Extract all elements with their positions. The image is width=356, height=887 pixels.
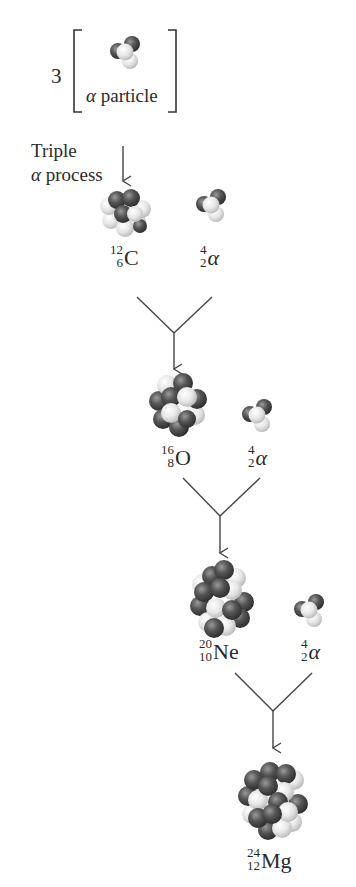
element-symbol: Mg: [261, 850, 292, 872]
isotope-label-alpha-2: 42α: [248, 443, 267, 469]
atomic-number: 2: [301, 650, 308, 663]
isotope-label-neon-20: 2010Ne: [199, 637, 239, 663]
triple-label: Triple: [31, 141, 77, 160]
element-symbol: α: [256, 447, 268, 469]
isotope-label-alpha-3: 42α: [301, 637, 320, 663]
atomic-number: 2: [248, 456, 255, 469]
carbon-12-nucleus: [100, 189, 151, 237]
atomic-number: 8: [161, 456, 174, 469]
oxygen-16-nucleus: [149, 373, 207, 437]
isotope-label-magnesium-24: 2412Mg: [247, 846, 292, 872]
atomic-number: 6: [110, 256, 123, 269]
isotope-label-alpha-1: 42α: [200, 243, 219, 269]
isotope-label-oxygen-16: 168O: [161, 443, 191, 469]
alpha-particle-icon: [110, 36, 140, 69]
element-symbol: C: [124, 247, 139, 269]
multiplier-label: 3: [51, 66, 62, 87]
alpha-process-label: α process: [31, 165, 103, 184]
alpha-symbol: α: [86, 85, 96, 106]
isotope-label-carbon-12: 126C: [110, 243, 139, 269]
merge-junction-1: [137, 297, 212, 369]
alpha-particle-label: α particle: [86, 86, 158, 105]
neon-20-nucleus: [190, 560, 254, 638]
magnesium-24-nucleus: [238, 762, 308, 840]
alpha-symbol: α: [31, 164, 41, 185]
process-text: process: [41, 164, 103, 185]
alpha-particle-icon-1: [196, 189, 226, 222]
merge-junction-3: [235, 673, 312, 748]
element-symbol: α: [309, 641, 321, 663]
element-symbol: Ne: [213, 641, 239, 663]
atomic-number: 10: [199, 650, 212, 663]
alpha-particle-icon-2: [242, 399, 272, 432]
atomic-number: 2: [200, 256, 207, 269]
element-symbol: α: [208, 247, 220, 269]
alpha-particle-icon-3: [294, 594, 324, 627]
alpha-particle-text: particle: [96, 85, 158, 106]
merge-junction-2: [183, 478, 260, 553]
atomic-number: 12: [247, 859, 260, 872]
element-symbol: O: [175, 447, 191, 469]
